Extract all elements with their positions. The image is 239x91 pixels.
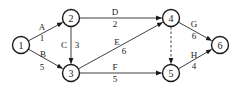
node-6-label: 6 xyxy=(218,40,223,51)
edge-a: A 1 xyxy=(29,22,63,43)
edge-h-duration: 4 xyxy=(192,61,197,71)
node-5: 5 xyxy=(163,65,180,82)
edge-g-duration: 6 xyxy=(192,31,197,41)
node-1: 1 xyxy=(13,37,30,54)
node-5-label: 5 xyxy=(169,68,174,79)
edge-c: C 3 xyxy=(61,27,80,64)
edge-d: D 2 xyxy=(80,7,162,29)
node-4: 4 xyxy=(163,10,180,27)
edge-d-activity: D xyxy=(112,7,119,17)
node-2-label: 2 xyxy=(69,13,74,24)
edge-f-duration: 5 xyxy=(113,74,118,84)
node-4-label: 4 xyxy=(169,13,174,24)
edges: A 1 B 5 C 3 D 2 E 6 F 5 xyxy=(29,7,212,84)
edge-h-activity: H xyxy=(191,50,198,60)
node-6: 6 xyxy=(212,37,229,54)
edge-d-duration: 2 xyxy=(113,19,118,29)
edge-a-activity: A xyxy=(39,22,46,32)
node-3: 3 xyxy=(63,65,80,82)
edge-f: F 5 xyxy=(80,62,162,84)
edge-c-activity: C xyxy=(61,40,67,50)
network-diagram: A 1 B 5 C 3 D 2 E 6 F 5 xyxy=(0,0,239,91)
node-3-label: 3 xyxy=(69,68,74,79)
edge-a-line xyxy=(29,23,63,41)
edge-f-activity: F xyxy=(112,62,117,72)
edge-g: G 6 xyxy=(179,19,212,41)
edge-b-duration: 5 xyxy=(40,62,45,72)
edge-c-duration: 3 xyxy=(75,40,80,50)
edge-h: H 4 xyxy=(179,50,212,72)
edge-g-activity: G xyxy=(191,19,198,29)
node-1-label: 1 xyxy=(19,40,24,51)
edge-e-line xyxy=(79,23,163,69)
node-2: 2 xyxy=(63,10,80,27)
edge-e: E 6 xyxy=(79,23,163,69)
edge-e-activity: E xyxy=(114,37,120,47)
edge-a-duration: 1 xyxy=(40,33,45,43)
edge-e-duration: 6 xyxy=(122,46,127,56)
edge-b-activity: B xyxy=(40,49,46,59)
edge-b: B 5 xyxy=(29,49,63,72)
